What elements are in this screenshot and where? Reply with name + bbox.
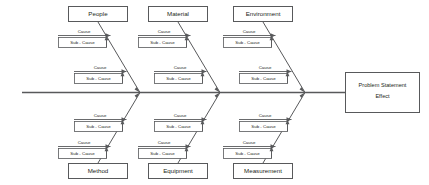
subcause-people-2-label: Sub - Cause xyxy=(86,76,111,81)
effect-title-line1: Problem Statement xyxy=(359,82,407,88)
subcause-environment-2-label: Sub - Cause xyxy=(251,76,276,81)
cause-measurement-2-label: Cause xyxy=(243,140,256,145)
cause-people-1: Cause Sub - Cause xyxy=(58,29,111,48)
cause-method-1: Cause Sub - Cause xyxy=(74,113,127,132)
effect-title-line2: Effect xyxy=(375,93,390,99)
category-label-measurement: Measurement xyxy=(244,167,282,174)
cause-measurement-2: Cause Sub - Cause xyxy=(223,140,276,159)
subcause-measurement-2-label: Sub - Cause xyxy=(235,151,260,156)
subcause-equipment-2-label: Sub - Cause xyxy=(150,151,175,156)
category-equipment: Equipment Cause Sub - Cause Cause Sub - … xyxy=(138,93,220,179)
cause-material-2: Cause Sub - Cause xyxy=(154,65,207,84)
cause-method-2: Cause Sub - Cause xyxy=(58,140,111,159)
cause-people-1-label: Cause xyxy=(78,29,91,34)
category-box-method[interactable]: Method xyxy=(69,164,128,179)
fishbone-diagram: Problem Statement Effect People Cause Su… xyxy=(0,0,429,185)
subcause-method-2-label: Sub - Cause xyxy=(70,151,95,156)
cause-material-1-label: Cause xyxy=(158,29,171,34)
cause-environment-1: Cause Sub - Cause xyxy=(223,29,276,48)
category-measurement: Measurement Cause Sub - Cause Cause Sub … xyxy=(223,93,305,179)
category-box-material[interactable]: Material xyxy=(149,7,208,22)
category-label-environment: Environment xyxy=(246,10,281,17)
category-label-people: People xyxy=(88,10,108,17)
category-box-people[interactable]: People xyxy=(69,7,128,22)
cause-material-2-label: Cause xyxy=(174,65,187,70)
cause-method-2-label: Cause xyxy=(78,140,91,145)
subcause-method-1-label: Sub - Cause xyxy=(86,124,111,129)
subcause-equipment-1-label: Sub - Cause xyxy=(166,124,191,129)
cause-material-1: Cause Sub - Cause xyxy=(138,29,191,48)
cause-equipment-2: Cause Sub - Cause xyxy=(138,140,191,159)
category-box-measurement[interactable]: Measurement xyxy=(234,164,293,179)
subcause-material-2-label: Sub - Cause xyxy=(166,76,191,81)
cause-environment-2: Cause Sub - Cause xyxy=(239,65,292,84)
cause-environment-1-label: Cause xyxy=(243,29,256,34)
cause-measurement-1: Cause Sub - Cause xyxy=(239,113,292,132)
category-box-environment[interactable]: Environment xyxy=(234,7,293,22)
subcause-environment-1-label: Sub - Cause xyxy=(235,40,260,45)
cause-people-2: Cause Sub - Cause xyxy=(74,65,127,84)
cause-equipment-2-label: Cause xyxy=(158,140,171,145)
category-box-equipment[interactable]: Equipment xyxy=(149,164,208,179)
category-method: Method Cause Sub - Cause Cause Sub - Cau… xyxy=(58,93,140,179)
effect-box[interactable]: Problem Statement Effect xyxy=(346,73,420,113)
cause-equipment-1: Cause Sub - Cause xyxy=(154,113,207,132)
category-label-method: Method xyxy=(88,167,109,174)
cause-measurement-1-label: Cause xyxy=(259,113,272,118)
subcause-measurement-1-label: Sub - Cause xyxy=(251,124,276,129)
cause-equipment-1-label: Cause xyxy=(174,113,187,118)
cause-method-1-label: Cause xyxy=(94,113,107,118)
subcause-material-1-label: Sub - Cause xyxy=(150,40,175,45)
category-label-material: Material xyxy=(167,10,189,17)
category-environment: Environment Cause Sub - Cause Cause Sub … xyxy=(223,7,305,93)
category-people: People Cause Sub - Cause Cause Sub - Cau… xyxy=(58,7,140,93)
category-label-equipment: Equipment xyxy=(163,167,193,174)
subcause-people-1-label: Sub - Cause xyxy=(70,40,95,45)
category-material: Material Cause Sub - Cause Cause Sub - C… xyxy=(138,7,220,93)
cause-people-2-label: Cause xyxy=(94,65,107,70)
cause-environment-2-label: Cause xyxy=(259,65,272,70)
